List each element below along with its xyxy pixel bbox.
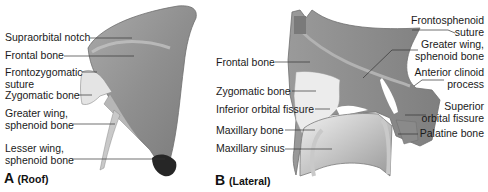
label-greater-wing-a-line2: sphenoid bone [5,120,74,132]
panel-b-letter: B [215,172,225,188]
label-frontozygomatic-line1: Frontozygomatic [5,67,83,79]
panel-b-view: (Lateral) [229,175,270,187]
label-frontosphenoid-suture: Frontosphenoid suture [411,15,484,38]
label-frontosphenoid-line1: Frontosphenoid [411,15,484,27]
label-anterior-clinoid-line1: Anterior clinoid [415,67,484,79]
label-zygomatic-bone-b: Zygomatic bone [216,86,291,98]
label-frontosphenoid-line2: suture [411,27,484,39]
label-zygomatic-bone-a: Zygomatic bone [5,90,80,102]
panel-b-caption: B (Lateral) [215,172,270,188]
label-maxillary-sinus: Maxillary sinus [216,143,285,155]
label-supraorbital-notch: Supraorbital notch [5,32,90,44]
label-inferior-orbital-fissure: Inferior orbital fissure [216,104,314,116]
label-palatine-bone: Palatine bone [420,128,484,140]
panel-a-caption: A (Roof) [4,170,48,186]
label-frontal-bone-b: Frontal bone [216,57,275,69]
label-superior-orbital-fissure: Superior orbital fissure [422,101,484,124]
panel-a-letter: A [4,170,14,186]
label-superior-orbital-line2: orbital fissure [422,113,484,125]
label-frontozygomatic-suture: Frontozygomatic suture [5,67,83,90]
label-anterior-clinoid-line2: process [415,79,484,91]
label-lesser-wing-line1: Lesser wing, [5,143,74,155]
label-lesser-wing: Lesser wing, sphenoid bone [5,143,74,166]
label-maxillary-bone: Maxillary bone [216,125,284,137]
label-greater-wing-a-line1: Greater wing, [5,108,74,120]
label-greater-wing-b: Greater wing, sphenoid bone [415,39,484,62]
label-superior-orbital-line1: Superior [422,101,484,113]
label-greater-wing-b-line2: sphenoid bone [415,51,484,63]
panel-a-view: (Roof) [17,173,48,185]
label-frontal-bone-a: Frontal bone [5,50,64,62]
label-anterior-clinoid-process: Anterior clinoid process [415,67,484,90]
label-greater-wing-b-line1: Greater wing, [415,39,484,51]
label-lesser-wing-line2: sphenoid bone [5,155,74,167]
label-greater-wing-a: Greater wing, sphenoid bone [5,108,74,131]
